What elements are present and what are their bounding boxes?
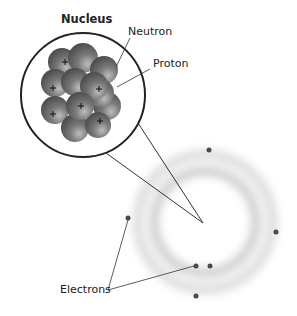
nucleus-cluster xyxy=(41,43,121,142)
electron xyxy=(207,148,212,153)
electrons-leader-1 xyxy=(108,220,128,290)
proton-label: Proton xyxy=(153,58,188,69)
electron xyxy=(208,264,213,269)
electron xyxy=(126,216,131,221)
nucleus-label: Nucleus xyxy=(61,14,112,26)
neutron-label: Neutron xyxy=(128,26,172,37)
electron xyxy=(194,294,199,299)
electron-cloud xyxy=(125,142,285,302)
electron xyxy=(194,264,199,269)
atom-diagram xyxy=(0,0,297,316)
electron xyxy=(274,230,279,235)
electrons-label: Electrons xyxy=(60,284,111,295)
